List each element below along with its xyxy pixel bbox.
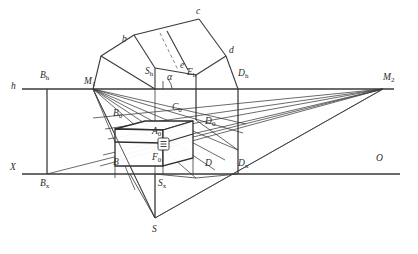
label-Eh: Eh [187,68,196,78]
plan-edge-d-e [196,56,226,75]
label-Dh: Dh [238,69,248,79]
label-Dx: Dx [238,159,248,169]
plan-edge-left-cell-right [134,35,155,68]
label-Sh: Sh [145,67,153,77]
label-D: D [205,159,212,169]
plan-edge-left-cell-top [101,35,134,56]
ray-M1-8 [93,89,246,124]
label-Bx: Bx [40,179,49,189]
plan-edge-b-c [134,19,199,35]
perspective-figure: h X Bh Bx M1 M2 Sh Sx S Eh Dh Dx D D0 B … [0,0,418,254]
label-A0: A0 [152,127,161,137]
label-C0: C0 [172,103,182,113]
figure-drawing-canvas [0,0,418,254]
label-c: c [196,7,200,17]
station-line-diagonal [130,174,155,218]
plan-inner-division [167,31,188,70]
plan-dashed-diagonal [160,33,178,70]
label-alpha: α [167,72,172,82]
label-X: X [10,163,16,173]
label-d: d [229,46,234,56]
ray-M2-1 [47,89,383,174]
label-b: b [122,35,127,45]
label-M1: M1 [84,77,95,87]
label-Sx: Sx [158,179,166,189]
rotated-plan-group [93,19,238,89]
label-S: S [152,225,157,235]
label-h: h [11,82,16,92]
label-O: O [376,154,383,164]
plan-edge-d-Dh [226,56,238,89]
label-Bh: Bh [40,71,49,81]
label-M2: M2 [383,73,394,83]
label-B0: B0 [113,109,122,119]
box-clasp-icon [158,138,169,150]
rays-from-M2 [47,89,383,218]
label-B: B [113,158,119,168]
label-e: e [180,61,184,71]
label-D0: D0 [205,117,215,127]
label-F0: F0 [152,153,161,163]
plan-edge-c-d [199,19,226,56]
